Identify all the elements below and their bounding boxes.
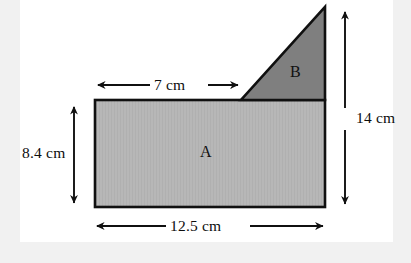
diagram-root: 7 cm 14 cm 8.4 cm 12.5 cm A B <box>0 0 411 263</box>
shape-label-b: B <box>290 64 301 80</box>
shape-label-a: A <box>200 144 212 160</box>
dimension-label-bottom: 12.5 cm <box>170 218 221 234</box>
dimension-label-right: 14 cm <box>356 110 395 126</box>
shape-triangle-b <box>241 7 325 100</box>
dimension-label-top: 7 cm <box>154 77 185 93</box>
dimension-label-left: 8.4 cm <box>22 145 65 161</box>
